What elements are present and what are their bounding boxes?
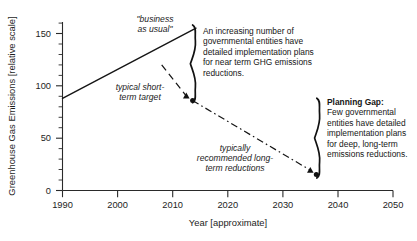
annotation-near-term-note: An increasing number of governmental ent…: [203, 26, 315, 78]
x-tick-label-2050: 2050: [383, 200, 404, 210]
annotation-typical-short-term-target: typical short- term target: [98, 82, 182, 102]
x-tick-label-2020: 2020: [217, 200, 238, 210]
y-tick-label-0: 0: [46, 186, 51, 196]
x-tick-label-1990: 1990: [52, 200, 73, 210]
long-term-target-marker: [307, 167, 314, 173]
chart-figure: 0 50 100 150 1990 2000 2010 2020 2030 20…: [0, 0, 417, 241]
x-tick-label-2000: 2000: [107, 200, 128, 210]
x-tick-label-2030: 2030: [273, 200, 294, 210]
x-tick-label-2040: 2040: [328, 200, 349, 210]
axis-x: [63, 191, 394, 198]
annotation-typically-recommended-long-term: typically recommended long- term reducti…: [183, 143, 287, 174]
brace-planning-gap: [315, 98, 320, 178]
near-term-note-text: An increasing number of governmental ent…: [203, 26, 314, 78]
y-tick-label-100: 100: [35, 81, 51, 91]
y-tick-label-150: 150: [35, 29, 51, 39]
planning-gap-lead: Planning Gap:: [327, 97, 415, 107]
brace-near-term: [190, 25, 195, 103]
annotation-planning-gap-note: Planning Gap: Few governmental entities …: [327, 97, 415, 159]
y-tick-label-50: 50: [41, 133, 51, 143]
x-axis-title: Year [approximate]: [189, 217, 267, 228]
x-tick-label-2010: 2010: [162, 200, 183, 210]
axis-y: [56, 22, 63, 191]
planning-gap-note-text: Few governmental entities have detailed …: [327, 107, 408, 159]
annotation-business-as-usual: "business as usual": [124, 14, 186, 34]
y-axis-title: Greenhouse Gas Emissions [relative scale…: [6, 16, 17, 195]
